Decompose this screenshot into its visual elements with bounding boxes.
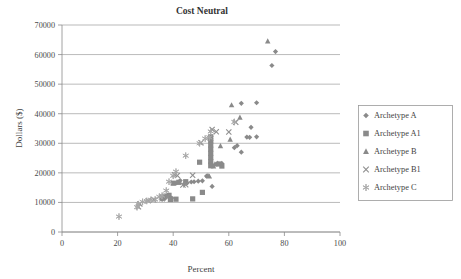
chart-legend: Archetype AArchetype A1Archetype BArchet… bbox=[359, 106, 453, 201]
y-tick-label: 0 bbox=[51, 228, 55, 237]
legend-marker-square bbox=[363, 131, 369, 137]
legend-label: Archetype A bbox=[374, 111, 417, 120]
data-point-square bbox=[190, 196, 195, 201]
x-axis-label: Percent bbox=[188, 264, 215, 274]
y-tick-label: 60000 bbox=[35, 51, 55, 60]
data-point-square bbox=[200, 190, 205, 195]
x-tick-label: 80 bbox=[280, 239, 288, 248]
cost-neutral-scatter-chart: Cost Neutral 010000200003000040000500006… bbox=[0, 0, 461, 279]
y-tick-label: 70000 bbox=[35, 21, 55, 30]
x-tick-label: 100 bbox=[334, 239, 346, 248]
y-tick-label: 30000 bbox=[35, 139, 55, 148]
chart-title: Cost Neutral bbox=[176, 6, 228, 16]
data-point-square bbox=[173, 197, 178, 202]
y-tick-label: 50000 bbox=[35, 80, 55, 89]
x-tick-label: 20 bbox=[114, 239, 122, 248]
legend-label: Archetype B1 bbox=[374, 165, 421, 174]
data-point-square bbox=[197, 160, 202, 165]
legend-label: Archetype B bbox=[374, 147, 417, 156]
y-tick-label: 20000 bbox=[35, 169, 55, 178]
legend-label: Archetype A1 bbox=[374, 129, 421, 138]
chart-container: Cost Neutral 010000200003000040000500006… bbox=[0, 0, 461, 279]
y-axis-label: Dollars ($) bbox=[14, 108, 24, 147]
y-tick-label: 10000 bbox=[35, 198, 55, 207]
legend-label: Archetype C bbox=[374, 183, 417, 192]
x-tick-label: 60 bbox=[225, 239, 233, 248]
x-tick-label: 40 bbox=[169, 239, 177, 248]
data-point-square bbox=[219, 163, 224, 168]
x-tick-label: 0 bbox=[60, 239, 64, 248]
y-tick-label: 40000 bbox=[35, 110, 55, 119]
